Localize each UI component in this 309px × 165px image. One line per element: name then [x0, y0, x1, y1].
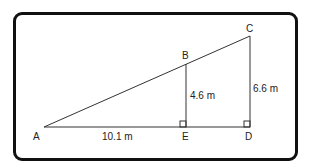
- point-label-E: E: [182, 131, 189, 142]
- measurement-BE: 4.6 m: [190, 90, 215, 101]
- point-label-C: C: [246, 23, 253, 34]
- right-angle-marker-E: [180, 121, 186, 127]
- triangle-diagram: A B C D E 10.1 m 4.6 m 6.6 m: [0, 0, 309, 165]
- point-label-D: D: [245, 131, 252, 142]
- line-AC: [44, 36, 250, 127]
- point-label-A: A: [33, 131, 40, 142]
- point-label-B: B: [182, 50, 189, 61]
- right-angle-marker-D: [244, 121, 250, 127]
- measurement-AE: 10.1 m: [102, 131, 133, 142]
- measurement-CD: 6.6 m: [253, 83, 278, 94]
